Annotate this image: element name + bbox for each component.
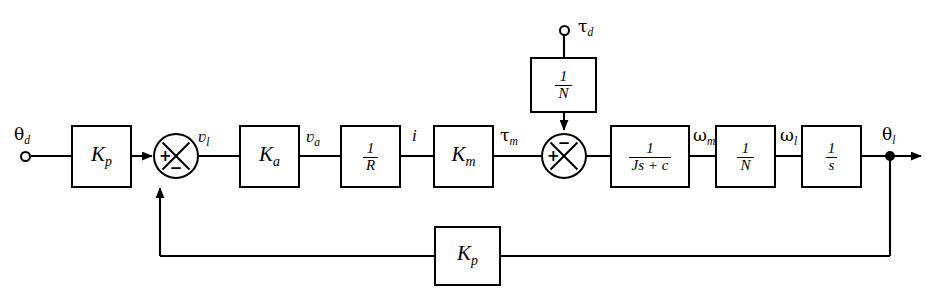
block-amplifier-gain-ka[interactable]: Ka [239, 125, 300, 188]
block-label-inertia-damping: 1 Js + c [629, 141, 672, 173]
block-inertia-damping[interactable]: 1 Js + c [610, 125, 690, 188]
fraction-numerator: 1 [825, 141, 839, 156]
signal-label-tau-m: τm [500, 127, 518, 148]
disturbance-input-terminal[interactable] [559, 25, 570, 36]
fraction-denominator: Js + c [629, 157, 672, 173]
disturbance-summer-minus-sign: − [558, 136, 571, 151]
block-gear-ratio-inverse-n[interactable]: 1 N [715, 125, 776, 188]
reference-input-terminal[interactable] [20, 151, 31, 162]
fraction-numerator: 1 [557, 69, 571, 84]
fraction-denominator: s [826, 157, 838, 173]
block-motor-constant-km[interactable]: Km [433, 125, 494, 188]
fraction-denominator: R [363, 157, 378, 173]
signal-label-omega-m: ωm [693, 127, 715, 148]
signal-label-current-i: i [412, 127, 417, 144]
output-junction-dot [885, 151, 895, 161]
signal-label-omega-l: ωl [780, 127, 797, 148]
signal-label-v-a: ʋa [306, 128, 320, 149]
fraction-denominator: N [555, 85, 571, 101]
block-label-integrator: 1 s [825, 141, 839, 173]
fraction-numerator: 1 [643, 141, 657, 156]
block-disturbance-gear-inverse-n[interactable]: 1 N [530, 57, 597, 113]
signal-label-theta-d: θd [14, 126, 30, 147]
block-integrator-inverse-s[interactable]: 1 s [801, 125, 862, 188]
block-label-forward-gain: Kp [91, 144, 112, 169]
block-label-feedback-gain: Kp [457, 243, 478, 268]
fraction-denominator: N [737, 157, 753, 173]
disturbance-summing-junction[interactable]: + − [541, 133, 587, 179]
block-label-disturbance-gear: 1 N [555, 69, 571, 101]
block-label-gear-ratio: 1 N [737, 141, 753, 173]
block-label-resistance: 1 R [363, 141, 378, 173]
block-label-motor-constant: Km [451, 144, 475, 169]
block-label-amplifier-gain: Ka [259, 144, 280, 169]
fraction-numerator: 1 [364, 141, 378, 156]
error-summing-junction[interactable]: + − [153, 133, 199, 179]
fraction-numerator: 1 [739, 141, 753, 156]
signal-label-tau-d: τd [578, 18, 593, 39]
signal-label-v-l: ʋl [198, 128, 210, 149]
error-summer-minus-sign: − [170, 161, 183, 176]
signal-label-theta-l: θl [882, 126, 895, 147]
block-resistance-inverse[interactable]: 1 R [340, 125, 401, 188]
block-forward-gain-kp[interactable]: Kp [71, 125, 132, 188]
block-diagram: θd ʋl ʋa i τm τd ωm ωl θl + − + − Kp Ka … [0, 0, 937, 293]
block-feedback-gain-kp[interactable]: Kp [434, 226, 501, 286]
